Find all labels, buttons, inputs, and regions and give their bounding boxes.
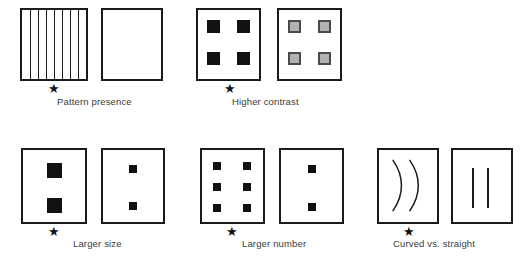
- group-curved-vs-straight: ★ Curved vs. straight: [360, 134, 528, 264]
- curved-arcs-graphic: [379, 150, 437, 222]
- gray-square: [318, 52, 331, 65]
- star-marker-larger-number: ★: [226, 225, 238, 238]
- caption-larger-number: Larger number: [242, 239, 306, 249]
- stimulus-box-six-squares: [200, 148, 265, 224]
- small-black-square: [129, 202, 137, 210]
- group-pattern-presence: ★ Pattern presence: [0, 0, 180, 120]
- star-marker-pattern-presence: ★: [48, 82, 60, 95]
- star-marker-higher-contrast: ★: [224, 82, 236, 95]
- stimulus-box-straight-lines: [451, 148, 513, 224]
- small-black-square: [213, 183, 221, 191]
- stripe-pattern: [22, 10, 86, 79]
- stimulus-box-two-squares: [279, 148, 344, 224]
- group-larger-number: ★ Larger number: [180, 134, 360, 264]
- black-square: [237, 52, 250, 65]
- caption-higher-contrast: Higher contrast: [232, 97, 299, 107]
- small-black-square: [213, 204, 221, 212]
- stimulus-box-curved-lines: [377, 148, 439, 224]
- large-black-square: [47, 198, 62, 213]
- gray-square: [288, 52, 301, 65]
- stimulus-box-empty: [101, 8, 163, 81]
- small-black-square: [129, 165, 137, 173]
- small-black-square: [243, 162, 251, 170]
- large-black-square: [47, 163, 62, 178]
- stimulus-box-large-squares: [21, 148, 87, 224]
- small-black-square: [308, 203, 316, 211]
- gray-square: [318, 20, 331, 33]
- straight-line: [472, 168, 474, 208]
- caption-larger-size: Larger size: [73, 239, 122, 249]
- small-black-square: [243, 183, 251, 191]
- stimulus-comparison-figure: ★ Pattern presence ★ Higher contrast: [0, 0, 528, 264]
- small-black-square: [213, 162, 221, 170]
- group-larger-size: ★ Larger size: [0, 134, 180, 264]
- black-square: [237, 20, 250, 33]
- star-marker-larger-size: ★: [48, 225, 60, 238]
- caption-curved-vs-straight: Curved vs. straight: [393, 239, 475, 249]
- stimulus-box-striped: [20, 8, 88, 81]
- caption-pattern-presence: Pattern presence: [57, 97, 132, 107]
- stimulus-box-black-squares: [196, 8, 261, 81]
- straight-line: [487, 168, 489, 208]
- black-square: [207, 20, 220, 33]
- stimulus-box-small-squares: [101, 148, 165, 224]
- star-marker-curved-vs-straight: ★: [403, 225, 415, 238]
- stimulus-box-gray-squares: [277, 8, 342, 81]
- group-higher-contrast: ★ Higher contrast: [180, 0, 360, 120]
- small-black-square: [308, 165, 316, 173]
- gray-square: [288, 20, 301, 33]
- black-square: [207, 52, 220, 65]
- small-black-square: [243, 204, 251, 212]
